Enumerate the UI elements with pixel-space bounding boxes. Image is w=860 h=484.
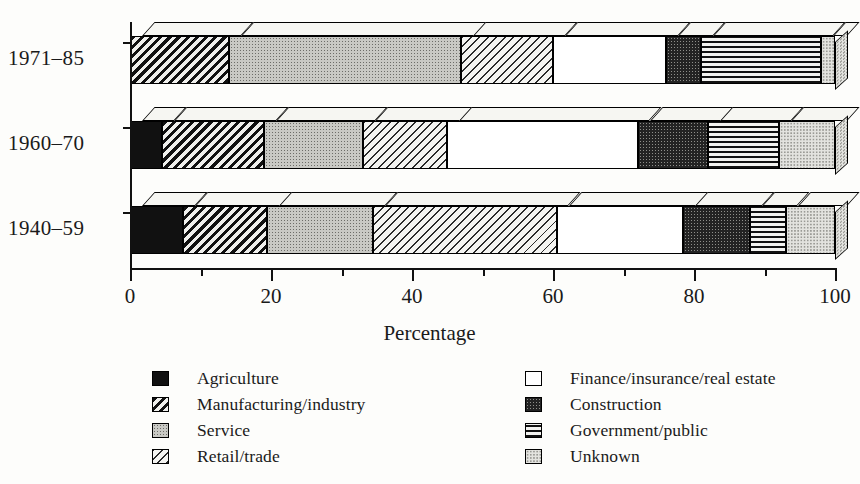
segment-top-face-1-3: [375, 107, 472, 121]
segment-top-face-0-1: [142, 22, 253, 36]
x-axis-tick-1: [271, 270, 273, 281]
legend-item[interactable]: Agriculture: [152, 365, 365, 391]
x-axis-tick-label-5: 100: [819, 284, 851, 309]
legend-item[interactable]: Service: [152, 417, 365, 443]
swatch-government: [525, 423, 542, 438]
bar-segment-1-0: [130, 121, 162, 169]
segment-top-face-0-4: [565, 22, 690, 36]
swatch-retail: [152, 449, 169, 464]
legend-item[interactable]: Construction: [525, 391, 776, 417]
segment-top-face-0-6: [713, 22, 845, 36]
bar-segment-2-4: [557, 206, 684, 254]
legend-column-left: AgricultureManufacturing/industryService…: [152, 365, 365, 469]
bar-segment-0-4: [553, 36, 666, 84]
bar-segment-1-7: [779, 121, 835, 169]
legend-item-label: Agriculture: [197, 368, 279, 389]
bar-segment-1-2: [264, 121, 363, 169]
segment-top-face-2-4: [569, 192, 708, 206]
x-axis-title: Percentage: [0, 321, 859, 346]
x-axis-minor-tick-4: [765, 270, 767, 276]
legend-item-label: Finance/insurance/real estate: [570, 368, 776, 389]
bar-segment-2-6: [750, 206, 785, 254]
legend-item[interactable]: Government/public: [525, 417, 776, 443]
bar-segment-1-1: [162, 121, 264, 169]
bar-segment-0-1: [130, 36, 229, 84]
bar-segment-0-7: [821, 36, 835, 84]
legend-item-label: Retail/trade: [197, 446, 280, 467]
bar-segment-2-5: [683, 206, 750, 254]
bar-segment-0-2: [229, 36, 462, 84]
legend-item-label: Unknown: [570, 446, 640, 467]
x-axis-tick-4: [694, 270, 696, 281]
x-axis-tick-label-1: 20: [261, 284, 282, 309]
segment-top-face-1-2: [276, 107, 387, 121]
x-axis-tick-label-3: 60: [543, 284, 564, 309]
bar-segment-1-4: [447, 121, 637, 169]
bar-segment-0-3: [461, 36, 553, 84]
x-axis-tick-label-2: 40: [402, 284, 423, 309]
x-axis-tick-2: [412, 270, 414, 281]
legend-item[interactable]: Finance/insurance/real estate: [525, 365, 776, 391]
bar-group-0: [0, 22, 859, 84]
legend-item[interactable]: Retail/trade: [152, 443, 365, 469]
swatch-agriculture: [152, 371, 169, 386]
y-axis-line: [130, 22, 132, 268]
legend-item-label: Manufacturing/industry: [197, 394, 365, 415]
x-axis-minor-tick-0: [201, 270, 203, 276]
bar-segment-2-3: [373, 206, 556, 254]
legend-item[interactable]: Manufacturing/industry: [152, 391, 365, 417]
bar-segment-0-5: [666, 36, 701, 84]
legend-item[interactable]: Unknown: [525, 443, 776, 469]
swatch-manufacturing: [152, 397, 169, 412]
legend-item-label: Government/public: [570, 420, 708, 441]
bar-segment-2-1: [183, 206, 268, 254]
bar-segment-2-2: [267, 206, 373, 254]
bar-segment-2-7: [786, 206, 835, 254]
bar-right-cap-2: [835, 200, 848, 260]
x-axis-minor-tick-2: [483, 270, 485, 276]
segment-top-face-1-1: [174, 107, 289, 121]
segment-top-face-1-7: [791, 107, 860, 121]
swatch-unknown: [525, 449, 542, 464]
legend-item-label: Construction: [570, 394, 662, 415]
legend-item-label: Service: [197, 420, 250, 441]
segment-top-face-2-7: [798, 192, 860, 206]
x-axis-tick-0: [130, 270, 132, 281]
swatch-construction: [525, 397, 542, 412]
legend-column-right: Finance/insurance/real estateConstructio…: [525, 365, 776, 469]
bar-segment-1-5: [638, 121, 709, 169]
segment-top-face-0-3: [473, 22, 577, 36]
x-axis-minor-tick-1: [342, 270, 344, 276]
bar-group-2: [0, 192, 859, 254]
swatch-service: [152, 423, 169, 438]
swatch-finance: [525, 371, 542, 386]
bar-right-cap-1: [835, 115, 848, 175]
bar-group-1: [0, 107, 859, 169]
plot-area: 1971–851960–701940–59020406080100Percent…: [0, 0, 859, 300]
segment-top-face-2-3: [385, 192, 581, 206]
segment-top-face-1-4: [459, 107, 662, 121]
x-axis-tick-5: [835, 270, 837, 281]
x-axis-tick-label-0: 0: [125, 284, 136, 309]
bar-segment-2-0: [130, 206, 183, 254]
bar-right-cap-0: [835, 30, 848, 90]
x-axis-tick-label-4: 80: [684, 284, 705, 309]
segment-top-face-0-2: [241, 22, 486, 36]
bar-segment-0-6: [701, 36, 821, 84]
chart-legend: AgricultureManufacturing/industryService…: [0, 365, 859, 475]
segment-top-face-2-1: [195, 192, 292, 206]
bar-segment-1-6: [708, 121, 779, 169]
bar-segment-1-3: [363, 121, 448, 169]
segment-top-face-1-6: [720, 107, 803, 121]
x-axis-minor-tick-3: [624, 270, 626, 276]
x-axis-tick-3: [553, 270, 555, 281]
segment-top-face-2-2: [279, 192, 397, 206]
